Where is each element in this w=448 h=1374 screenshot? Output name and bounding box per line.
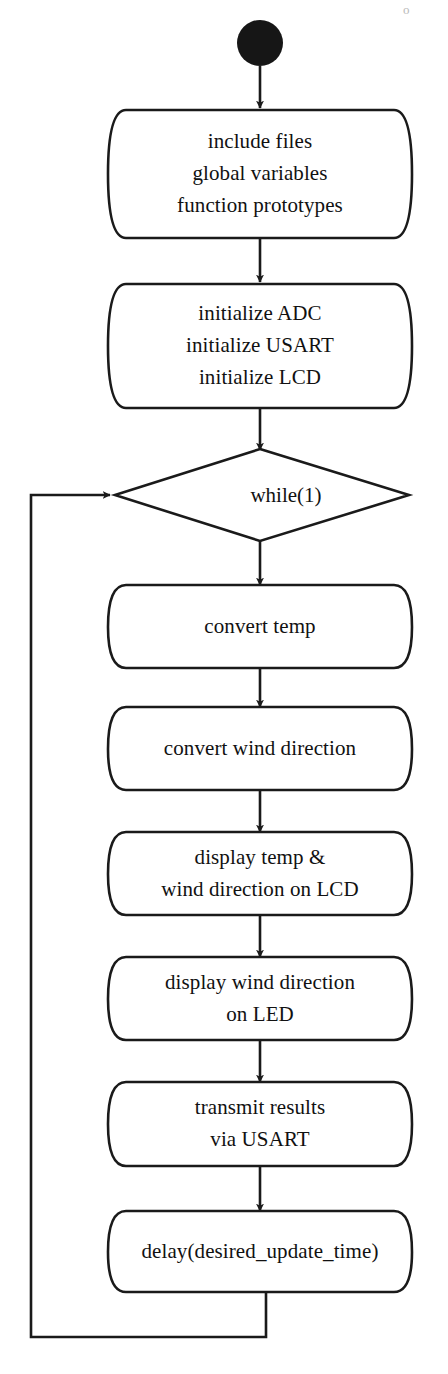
flowchart-page: o — [0, 0, 448, 1374]
node-display-led-shape — [108, 957, 412, 1040]
node-setup-shape — [108, 110, 412, 238]
node-convert-wind-direction-shape — [108, 707, 412, 790]
node-init-shape — [108, 284, 412, 408]
node-display-lcd-shape — [108, 832, 412, 915]
node-loop-label: while(1) — [206, 483, 366, 508]
node-delay-shape — [108, 1211, 412, 1292]
node-convert-temp-shape — [108, 585, 412, 668]
node-transmit-shape — [108, 1082, 412, 1166]
start-node-circle — [237, 20, 283, 66]
flowchart-canvas — [0, 0, 448, 1374]
